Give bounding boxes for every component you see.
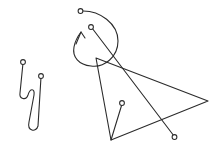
squiggle-endpoint-marker-right (39, 74, 44, 79)
long-diagonal-end-marker (172, 135, 177, 140)
arc-start-marker (78, 9, 83, 14)
long-diagonal-start-marker (89, 25, 94, 30)
sketch-svg (0, 0, 221, 151)
short-line-endpoint-marker (120, 101, 125, 106)
drawing-canvas (0, 0, 221, 151)
squiggle-endpoint-marker-top (21, 60, 26, 65)
